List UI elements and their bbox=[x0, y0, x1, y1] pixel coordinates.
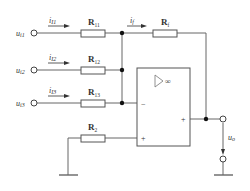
opamp-triangle-icon bbox=[155, 75, 163, 87]
terminal-ui3 bbox=[31, 100, 37, 106]
label-rf: Rf bbox=[161, 17, 170, 28]
opamp-noninverting-sign: + bbox=[141, 134, 146, 143]
terminal-output-ground bbox=[220, 156, 226, 162]
label-uo: uo bbox=[228, 133, 235, 142]
arrow-head-icon bbox=[141, 24, 147, 28]
arrow-head-icon bbox=[64, 94, 70, 98]
arrow-head-icon bbox=[64, 24, 70, 28]
terminal-ui2 bbox=[31, 67, 37, 73]
circuit-diagram: ∞ − + + ui1 ui2 ui3 iI1 iI2 iI3 if R11 R… bbox=[0, 0, 250, 191]
resistor-r11 bbox=[81, 30, 105, 37]
label-i1: iI1 bbox=[49, 16, 56, 25]
arrow-head-icon bbox=[221, 149, 225, 155]
resistor-rf bbox=[153, 30, 177, 37]
label-ui3: ui3 bbox=[16, 99, 25, 108]
resistor-r13 bbox=[81, 100, 105, 107]
label-if: if bbox=[130, 16, 135, 25]
terminal-output bbox=[220, 116, 226, 122]
opamp-inverting-sign: − bbox=[141, 100, 146, 109]
label-i3: iI3 bbox=[49, 86, 56, 95]
resistor-r2 bbox=[81, 135, 105, 142]
arrow-head-icon bbox=[64, 61, 70, 65]
opamp-output-sign: + bbox=[181, 115, 186, 124]
label-r12: R12 bbox=[88, 54, 100, 65]
label-r11: R11 bbox=[88, 17, 100, 28]
opamp-infinity: ∞ bbox=[165, 77, 171, 86]
label-i2: iI2 bbox=[49, 53, 56, 62]
label-r2: R2 bbox=[88, 122, 98, 133]
label-ui1: ui1 bbox=[16, 29, 25, 38]
node-3 bbox=[120, 101, 124, 105]
node-output bbox=[204, 117, 208, 121]
node-1 bbox=[120, 31, 124, 35]
node-2 bbox=[120, 68, 124, 72]
resistor-r12 bbox=[81, 67, 105, 74]
label-r13: R13 bbox=[88, 87, 100, 98]
terminal-ui1 bbox=[31, 30, 37, 36]
label-ui2: ui2 bbox=[16, 66, 25, 75]
